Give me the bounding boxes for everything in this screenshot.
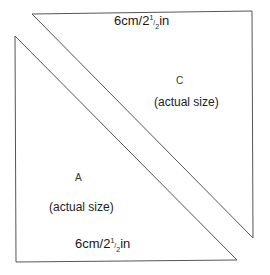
dimension-whole: 6cm/2 (75, 236, 110, 251)
triangle-a-note: (actual size) (49, 200, 114, 214)
triangle-c-dimension: 6cm/21/2in (114, 13, 169, 30)
dimension-unit: in (120, 236, 130, 251)
triangle-a-dimension: 6cm/21/2in (75, 236, 130, 253)
triangle-a-outline (15, 36, 237, 262)
triangle-c-label: C (176, 75, 183, 86)
template-diagram (0, 0, 270, 275)
triangle-a-label: A (75, 172, 82, 183)
dimension-unit: in (159, 13, 169, 28)
triangle-c-note: (actual size) (154, 95, 219, 109)
dimension-whole: 6cm/2 (114, 13, 149, 28)
